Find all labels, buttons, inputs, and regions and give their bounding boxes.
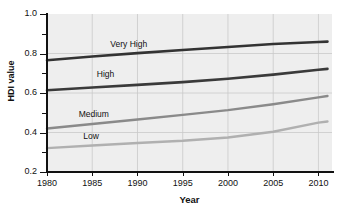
x-axis-line (46, 171, 334, 173)
x-tick (318, 172, 319, 176)
x-tick (137, 172, 138, 176)
y-axis-title: HDI value (6, 46, 16, 116)
series-line-high (47, 69, 327, 90)
x-tick-label: 2010 (298, 178, 338, 188)
y-tick-major (40, 14, 47, 15)
x-tick (92, 172, 93, 176)
y-tick-minor (42, 34, 47, 35)
x-tick-label: 1995 (163, 178, 203, 188)
x-axis-title: Year (47, 194, 332, 205)
x-tick-label: 2005 (253, 178, 293, 188)
y-tick-minor (42, 73, 47, 74)
y-tick-label: 0.4 (0, 127, 37, 137)
y-tick-minor (42, 113, 47, 114)
x-tick (183, 172, 184, 176)
series-label-very-high: Very High (110, 39, 147, 49)
series-lines (47, 14, 332, 172)
y-tick-major (40, 93, 47, 94)
x-tick-label: 2000 (208, 178, 248, 188)
x-tick (47, 172, 48, 176)
y-tick-minor (42, 152, 47, 153)
chart-figure: Very HighHighMediumLow 0.20.40.60.81.0 1… (0, 0, 346, 221)
x-tick-label: 1985 (72, 178, 112, 188)
y-tick-label: 0.2 (0, 166, 37, 176)
y-tick-major (40, 133, 47, 134)
x-tick-label: 1980 (27, 178, 67, 188)
y-tick-label: 1.0 (0, 8, 37, 18)
y-tick-major (40, 172, 47, 173)
series-line-very-high (47, 42, 327, 61)
series-label-high: High (97, 69, 114, 79)
x-tick (273, 172, 274, 176)
series-label-medium: Medium (79, 109, 109, 119)
series-label-low: Low (83, 131, 99, 141)
x-tick (228, 172, 229, 176)
plot-area: Very HighHighMediumLow (47, 14, 332, 172)
x-tick-label: 1990 (117, 178, 157, 188)
y-tick-major (40, 54, 47, 55)
